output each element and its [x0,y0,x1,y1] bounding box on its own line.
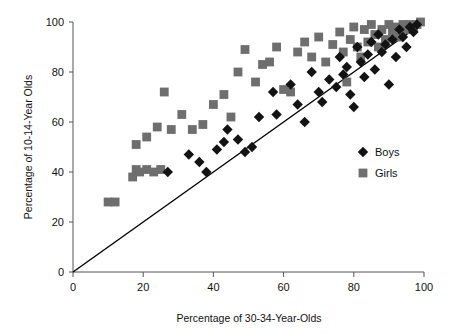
scatter-chart: 020406080100 020406080100 BoysGirls Perc… [0,0,455,333]
data-point-boys [233,134,243,144]
data-point-girls [346,35,355,44]
data-point-girls [321,58,330,67]
data-point-girls [198,120,207,129]
data-point-girls [188,125,197,134]
legend-label-girls: Girls [375,167,398,179]
data-point-boys [306,67,316,77]
y-tick-label: 60 [52,116,64,128]
data-point-girls [209,100,218,109]
data-point-girls [160,88,169,97]
data-point-girls [241,45,250,54]
x-axis-title: Percentage of 30-34-Year-Olds [177,312,322,324]
data-point-girls [177,110,186,119]
data-point-boys [268,87,278,97]
data-point-girls [335,28,344,37]
data-point-boys [345,89,355,99]
x-tick-label: 0 [70,281,76,293]
data-point-boys [391,52,401,62]
data-point-boys [254,112,264,122]
data-point-girls [153,123,162,132]
data-point-girls [227,113,236,122]
data-point-girls [307,53,316,62]
data-point-girls [111,198,120,207]
y-tick-label: 40 [52,166,64,178]
data-point-girls [349,23,358,32]
data-point-boys [349,102,359,112]
data-point-girls [265,58,274,67]
data-point-boys [401,42,411,52]
legend-marker-boys [358,147,368,157]
data-point-boys [201,167,211,177]
data-point-boys [384,79,394,89]
y-tick-group: 020406080100 [46,16,73,278]
legend-label-boys: Boys [375,146,400,158]
data-point-boys [331,82,341,92]
data-point-boys [292,99,302,109]
data-point-girls [367,20,376,29]
data-point-boys [317,97,327,107]
y-tick-label: 80 [52,66,64,78]
data-point-girls [328,40,337,49]
data-point-girls [300,38,309,47]
data-point-boys [324,74,334,84]
x-tick-label: 40 [207,281,219,293]
y-tick-label: 100 [46,16,64,28]
data-point-girls [167,125,176,134]
data-point-boys [271,109,281,119]
legend: BoysGirls [358,146,400,179]
data-point-boys [184,149,194,159]
data-point-girls [220,90,229,99]
data-point-boys [359,72,369,82]
x-tick-group: 020406080100 [70,272,433,293]
legend-marker-girls [359,169,368,178]
x-tick-label: 100 [415,281,433,293]
plot-canvas: 020406080100 020406080100 BoysGirls Perc… [0,0,455,333]
data-point-girls [234,68,243,77]
data-point-boys [212,144,222,154]
data-point-boys [222,124,232,134]
data-point-boys [219,137,229,147]
x-tick-label: 60 [277,281,289,293]
data-point-boys [370,64,380,74]
data-point-girls [314,33,323,42]
y-axis-title: Percentage of 10-14-Year Olds [22,75,34,219]
data-point-boys [314,87,324,97]
x-tick-label: 80 [348,281,360,293]
data-point-girls [142,133,151,142]
data-point-girls [251,78,260,87]
y-tick-label: 0 [58,266,64,278]
data-point-girls [293,48,302,57]
data-point-boys [194,157,204,167]
data-point-girls [132,140,141,149]
data-point-boys [299,117,309,127]
data-point-girls [272,43,281,52]
y-tick-label: 20 [52,216,64,228]
x-tick-label: 20 [137,281,149,293]
